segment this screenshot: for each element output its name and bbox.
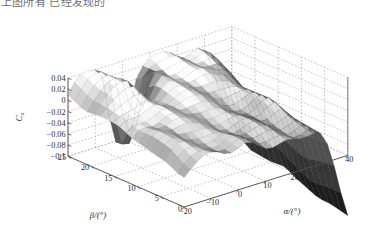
svg-text:20: 20	[291, 173, 299, 182]
svg-text:40: 40	[345, 155, 353, 164]
svg-text:−0.06: −0.06	[47, 130, 66, 139]
svg-text:−0.08: −0.08	[47, 141, 66, 150]
svg-text:−20: −20	[179, 207, 192, 216]
svg-text:−0.02: −0.02	[47, 108, 66, 117]
svg-text:25: 25	[58, 153, 66, 162]
surface-mesh	[68, 48, 348, 216]
svg-text:15: 15	[104, 174, 112, 183]
svg-text:10: 10	[127, 184, 135, 193]
svg-text:20: 20	[81, 163, 89, 172]
svg-text:0: 0	[61, 96, 65, 105]
svg-text:30: 30	[318, 164, 326, 173]
surface-plot-figure: 上图所有 已经发现的 0.040.020−0.02−0.04−0.06−0.08…	[0, 0, 376, 245]
svg-text:−10: −10	[206, 198, 219, 207]
svg-text:0: 0	[238, 190, 242, 199]
alpha-axis-title: α/(°)	[284, 206, 301, 216]
svg-text:−0.04: −0.04	[47, 119, 66, 128]
svg-text:10: 10	[263, 181, 271, 190]
svg-text:0.04: 0.04	[51, 74, 65, 83]
plot-canvas: 0.040.020−0.02−0.04−0.06−0.08−0.12520151…	[0, 0, 376, 245]
beta-axis-title: β/(°)	[89, 210, 107, 220]
svg-text:Cx: Cx	[14, 112, 25, 121]
z-axis-title: Cx	[14, 112, 25, 121]
svg-text:0.02: 0.02	[51, 85, 65, 94]
svg-text:5: 5	[155, 194, 159, 203]
